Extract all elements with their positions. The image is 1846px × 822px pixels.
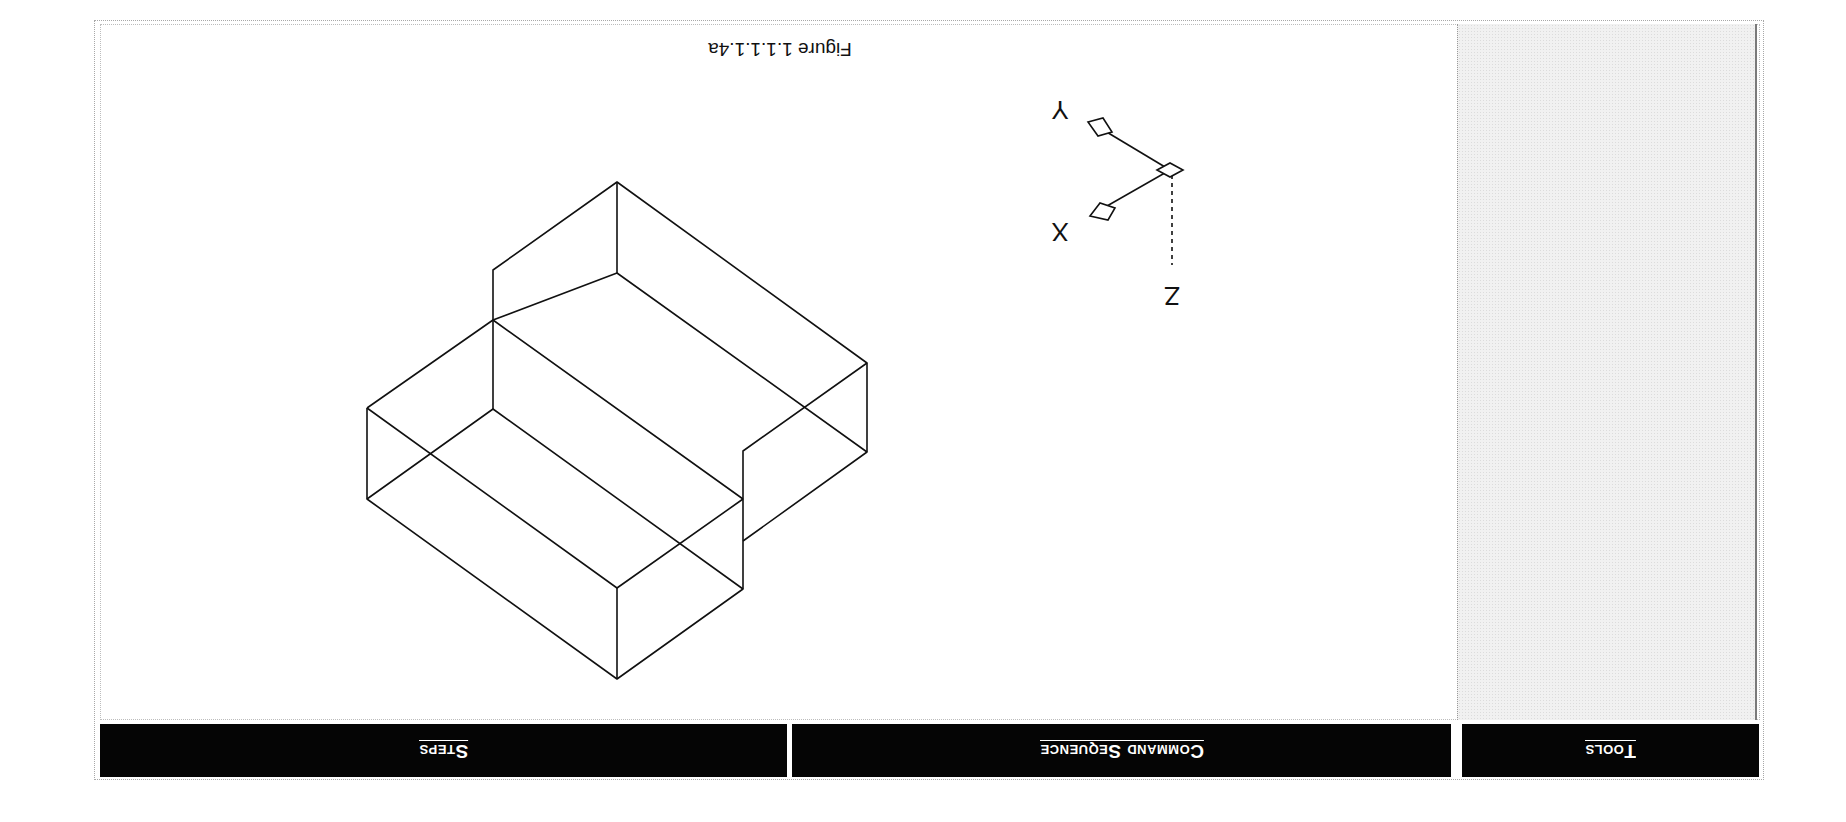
x-axis-label: X — [1045, 217, 1075, 247]
x-axis-line — [1100, 170, 1170, 210]
y-axis-line — [1100, 128, 1170, 170]
stepped-block-wireframe — [367, 182, 867, 679]
y-axis-label: Y — [1045, 95, 1075, 125]
model-edge — [493, 182, 867, 541]
model-edge — [367, 320, 743, 499]
ucs-axis-icon — [1088, 118, 1183, 265]
model-edge — [367, 409, 743, 589]
x-arrowhead — [1090, 203, 1115, 220]
z-axis-label: Z — [1157, 281, 1187, 311]
figure-drawing — [0, 0, 1846, 822]
y-arrowhead — [1088, 118, 1112, 136]
model-edge — [367, 408, 743, 588]
model-edge — [493, 273, 867, 452]
